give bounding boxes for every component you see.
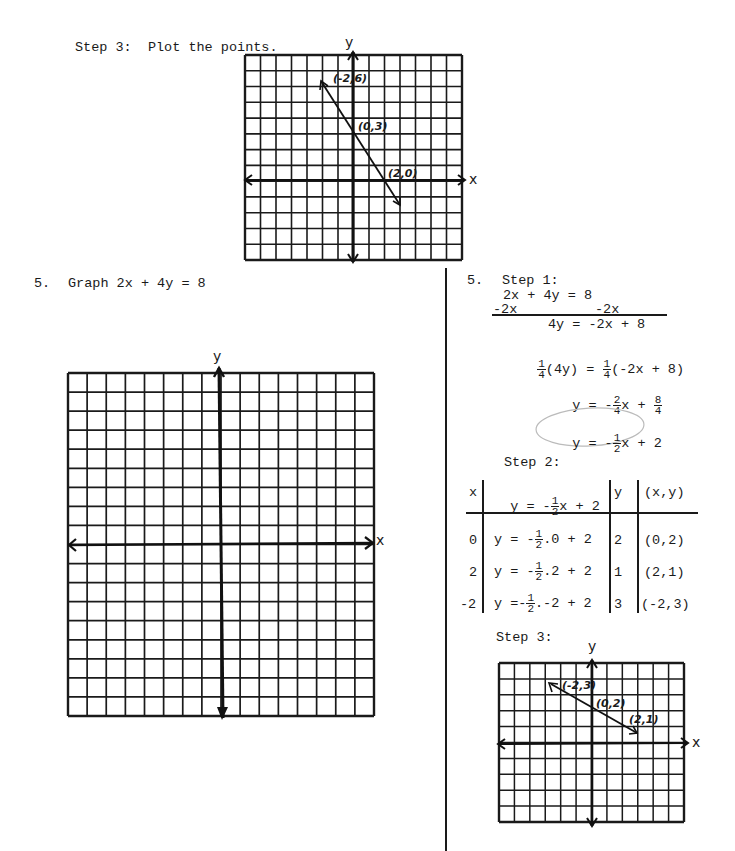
point-label: (0,2) (596, 697, 626, 710)
solution-graph-x-label: x (692, 734, 700, 750)
point-label: (2,1) (629, 713, 659, 726)
solution-graph-y-label: y (588, 638, 596, 654)
point-label: (-2,3) (562, 679, 596, 692)
solution-graph (0, 0, 735, 851)
